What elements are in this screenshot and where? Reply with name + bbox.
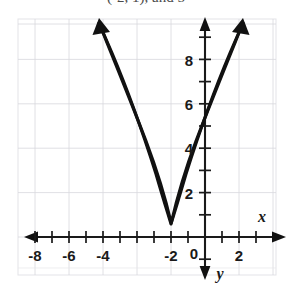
plot-background xyxy=(0,13,292,285)
x-tick-label: -6 xyxy=(62,247,75,264)
origin-label: 0 xyxy=(190,245,198,262)
y-tick-label: 2 xyxy=(185,185,193,202)
x-tick-label: -4 xyxy=(96,247,110,264)
x-tick-label: 2 xyxy=(235,247,243,264)
x-tick-label: -8 xyxy=(28,247,41,264)
caption-fragment: (-2, 1), and 5 xyxy=(107,0,185,4)
y-axis-label: y xyxy=(214,265,224,283)
x-axis-label: x xyxy=(257,208,266,225)
figure: (-2, 1), and 5 xyxy=(0,0,292,285)
x-tick-label: -2 xyxy=(164,247,177,264)
y-tick-label: 6 xyxy=(185,96,193,113)
parabola-plot: -8 -6 -4 -2 0 2 2 4 6 8 x y xyxy=(0,13,292,285)
coordinate-plane-svg: -8 -6 -4 -2 0 2 2 4 6 8 x y xyxy=(0,13,292,285)
cropped-caption-text: (-2, 1), and 5 xyxy=(0,0,292,13)
y-tick-label: 8 xyxy=(185,52,193,69)
y-tick-label: 4 xyxy=(185,140,194,157)
